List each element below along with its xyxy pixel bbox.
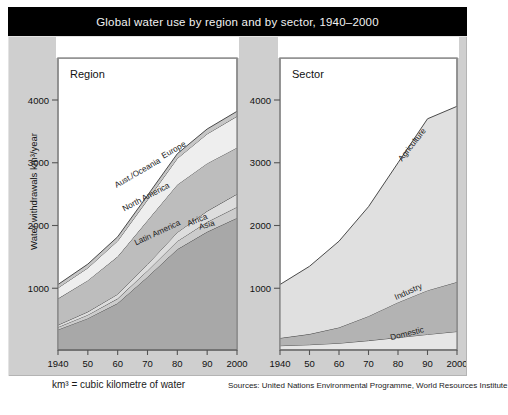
svg-text:2000: 2000 bbox=[226, 358, 247, 369]
svg-text:90: 90 bbox=[202, 358, 213, 369]
svg-text:1940: 1940 bbox=[47, 358, 68, 369]
svg-text:2000: 2000 bbox=[250, 220, 271, 231]
svg-text:2000: 2000 bbox=[446, 358, 467, 369]
svg-text:4000: 4000 bbox=[28, 95, 49, 106]
svg-text:Sector: Sector bbox=[292, 68, 324, 80]
chart-title-bar: Global water use by region and by sector… bbox=[8, 7, 467, 36]
svg-text:Region: Region bbox=[70, 68, 105, 80]
svg-text:3000: 3000 bbox=[250, 157, 271, 168]
svg-text:50: 50 bbox=[304, 358, 315, 369]
svg-text:90: 90 bbox=[422, 358, 433, 369]
svg-text:80: 80 bbox=[393, 358, 404, 369]
sources-footnote: Sources: United Nations Environmental Pr… bbox=[228, 381, 508, 390]
svg-text:1000: 1000 bbox=[28, 283, 49, 294]
page-title: Global water use by region and by sector… bbox=[96, 16, 379, 28]
chart-board: Water withdrawals km³/year Region1000200… bbox=[8, 36, 467, 376]
svg-text:70: 70 bbox=[363, 358, 374, 369]
svg-text:80: 80 bbox=[172, 358, 183, 369]
unit-footnote: km³ = cubic kilometre of water bbox=[52, 379, 185, 390]
svg-text:1000: 1000 bbox=[250, 283, 271, 294]
svg-text:60: 60 bbox=[334, 358, 345, 369]
y-axis-label: Water withdrawals km³/year bbox=[28, 127, 39, 257]
charts-svg: Region1000200030004000194050607080902000… bbox=[8, 36, 467, 376]
svg-text:50: 50 bbox=[83, 358, 94, 369]
svg-text:60: 60 bbox=[112, 358, 123, 369]
svg-text:4000: 4000 bbox=[250, 95, 271, 106]
svg-text:70: 70 bbox=[142, 358, 153, 369]
svg-text:1940: 1940 bbox=[269, 358, 290, 369]
